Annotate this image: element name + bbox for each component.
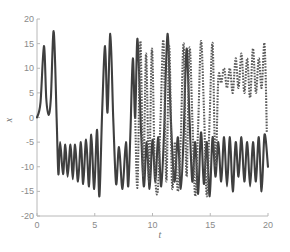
x-tick-label: 20 [263, 220, 273, 230]
y-axis-title: x [3, 117, 14, 123]
plot-area [37, 31, 268, 196]
y-tick-label: 20 [24, 14, 34, 24]
y-tick-label: -5 [26, 137, 34, 147]
x-axis-title: t [159, 229, 162, 240]
x-tick-label: 15 [205, 220, 215, 230]
y-tick-label: 10 [24, 63, 34, 73]
x-tick-label: 10 [147, 220, 157, 230]
x-tick-label: 5 [92, 220, 97, 230]
y-tick-label: -20 [21, 211, 34, 221]
line-chart: 20151050-5-10-15-20 05101520 t x [0, 0, 290, 252]
y-tick-label: -10 [21, 162, 34, 172]
y-tick-label: 0 [29, 113, 34, 123]
y-tick-label: -15 [21, 186, 34, 196]
x-tick-label: 0 [34, 220, 39, 230]
y-tick-label: 5 [29, 88, 34, 98]
y-tick-label: 15 [24, 39, 34, 49]
